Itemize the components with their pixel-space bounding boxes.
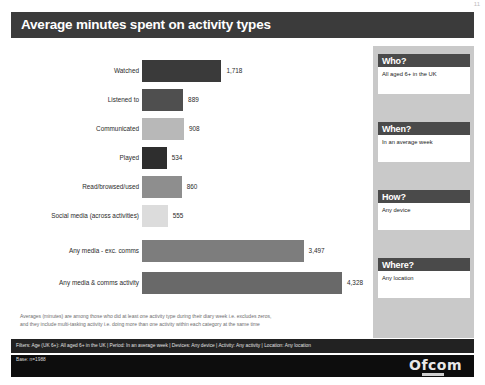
sidebar-panel-heading: Who?	[378, 54, 470, 67]
bar-chart: Watched1,718Listened to889Communicated90…	[11, 46, 371, 338]
bar-value-label: 860	[187, 183, 198, 190]
bar	[142, 89, 183, 111]
sidebar-panel-who: Who?All aged 6+ in the UK	[378, 54, 470, 94]
bar-value-label: 534	[172, 154, 183, 161]
bar-category-label: Played	[119, 154, 139, 161]
base-label: Base: n=1988	[16, 357, 46, 362]
bar	[142, 147, 167, 169]
sidebar-panel-heading: How?	[378, 190, 470, 203]
page-number: 11	[474, 1, 480, 7]
bar-value-label: 889	[188, 96, 199, 103]
chart-footnote: Averages (minutes) are among those who d…	[20, 313, 370, 329]
ofcom-logo-underline	[422, 373, 444, 376]
bar	[142, 205, 168, 227]
bar	[142, 240, 304, 262]
footnote-line-2: and they include multi-tasking activity …	[20, 321, 370, 329]
context-sidebar: Who?All aged 6+ in the UKWhen?In an aver…	[373, 46, 474, 338]
sidebar-panel-body: Any location	[378, 271, 470, 298]
bar-category-label: Listened to	[108, 96, 139, 103]
page-title: Average minutes spent on activity types	[21, 17, 271, 32]
sidebar-panel-body: In an average week	[378, 135, 470, 162]
bar-category-label: Any media - exc. comms	[69, 247, 139, 254]
bar-value-label: 4,328	[347, 279, 363, 286]
bar-category-label: Communicated	[96, 125, 139, 132]
bar-value-label: 3,497	[309, 247, 325, 254]
bar-category-label: Watched	[114, 67, 139, 74]
title-bar: Average minutes spent on activity types	[11, 12, 474, 38]
filter-bar[interactable]: Filters: Age (UK 6+): All aged 6+ in the…	[11, 339, 474, 353]
sidebar-panel-when: When?In an average week	[378, 122, 470, 162]
bar-value-label: 1,718	[226, 67, 242, 74]
bar	[142, 272, 342, 294]
bar-value-label: 908	[189, 125, 200, 132]
sidebar-panel-body: All aged 6+ in the UK	[378, 67, 470, 94]
footer-bar: Base: n=1988 Ofcom	[11, 355, 474, 377]
sidebar-panel-body: Any device	[378, 203, 470, 230]
filter-summary-text: Filters: Age (UK 6+): All aged 6+ in the…	[16, 343, 311, 348]
sidebar-panel-heading: Where?	[378, 258, 470, 271]
bar-category-label: Social media (across activities)	[51, 212, 139, 219]
bar	[142, 60, 221, 82]
sidebar-panel-where: Where?Any location	[378, 258, 470, 298]
bar-category-label: Read/browsed/used	[82, 183, 139, 190]
bar	[142, 176, 182, 198]
sidebar-panel-heading: When?	[378, 122, 470, 135]
bar-category-label: Any media & comms activity	[59, 279, 139, 286]
bar-value-label: 555	[173, 212, 184, 219]
slide: Average minutes spent on activity types …	[0, 0, 485, 385]
sidebar-panel-how: How?Any device	[378, 190, 470, 230]
bar	[142, 118, 184, 140]
ofcom-logo: Ofcom	[409, 357, 462, 373]
footnote-line-1: Averages (minutes) are among those who d…	[20, 313, 370, 321]
